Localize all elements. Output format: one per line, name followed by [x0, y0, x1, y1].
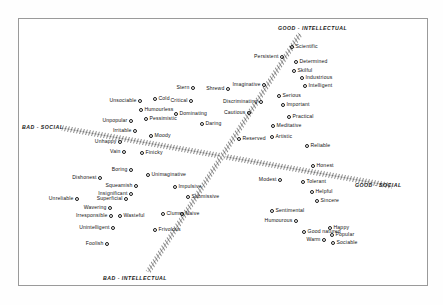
data-point-label: Finicky: [146, 150, 163, 155]
data-point: [277, 94, 281, 98]
data-point: [281, 103, 285, 107]
data-point: [311, 164, 315, 168]
data-point-label: Frivolous: [159, 227, 181, 232]
data-point: [322, 238, 326, 242]
data-point: [237, 137, 241, 141]
data-point-label: Discriminating: [223, 99, 258, 104]
axis-label-good-intellectual: GOOD - INTELLECTUAL: [278, 26, 347, 31]
data-point-label: Wasteful: [124, 213, 145, 218]
data-point: [129, 192, 133, 196]
data-point: [280, 55, 284, 59]
data-point: [118, 140, 122, 144]
data-point: [294, 219, 298, 223]
data-point-label: Honest: [317, 163, 334, 168]
data-point-label: Squeamish: [105, 183, 132, 188]
data-point-label: Vain: [110, 149, 121, 154]
data-point: [262, 83, 266, 87]
data-point: [270, 135, 274, 139]
data-point: [105, 242, 109, 246]
data-point: [226, 87, 230, 91]
data-point-label: Cold: [159, 96, 170, 101]
data-point-label: Unpopular: [102, 118, 127, 123]
data-point-label: Cautious: [224, 110, 246, 115]
data-point: [138, 99, 142, 103]
data-point: [153, 228, 157, 232]
data-point-label: Naive: [186, 211, 200, 216]
data-point: [153, 97, 157, 101]
data-point: [259, 100, 263, 104]
data-point: [305, 144, 309, 148]
data-point: [173, 185, 177, 189]
data-point: [146, 173, 150, 177]
data-point-label: Industrious: [306, 75, 333, 80]
data-point-label: Humourless: [145, 107, 174, 112]
data-point: [331, 241, 335, 245]
data-point-label: Sincere: [321, 198, 340, 203]
data-point: [186, 195, 190, 199]
data-point-label: Reserved: [243, 136, 266, 141]
axis-lines-layer: [0, 0, 443, 305]
data-point: [108, 206, 112, 210]
data-point: [294, 60, 298, 64]
data-point: [303, 84, 307, 88]
data-point-label: Warm: [306, 237, 320, 242]
data-point-label: Humourous: [265, 218, 293, 223]
data-point: [189, 99, 193, 103]
axis-label-bad-social: BAD - SOCIAL: [22, 125, 63, 130]
data-point-label: Irresponsible: [76, 213, 108, 218]
data-point-label: Sentimental: [276, 208, 305, 213]
data-point: [191, 86, 195, 90]
data-point: [149, 134, 153, 138]
data-point-label: Popular: [336, 232, 355, 237]
social-axis-band: [62, 128, 392, 186]
data-point-label: Determined: [300, 59, 328, 64]
data-point: [301, 180, 305, 184]
data-point: [122, 150, 126, 154]
data-point: [75, 197, 79, 201]
data-point: [140, 151, 144, 155]
data-point-label: Serious: [283, 93, 302, 98]
data-point: [139, 108, 143, 112]
data-point: [111, 226, 115, 230]
data-point-label: Skilful: [298, 68, 313, 73]
data-point: [278, 178, 282, 182]
data-point: [292, 69, 296, 73]
data-point-label: Unhappy: [95, 139, 117, 144]
data-point-label: Unsociable: [109, 98, 136, 103]
data-point: [200, 122, 204, 126]
data-point-label: Superficial: [97, 196, 123, 201]
data-point: [124, 197, 128, 201]
axis-label-bad-intellectual: BAD - INTELLECTUAL: [103, 276, 167, 281]
data-point: [300, 76, 304, 80]
data-point: [118, 214, 122, 218]
data-point: [109, 214, 113, 218]
data-point-label: Scientific: [296, 44, 318, 49]
data-point-label: Foolish: [86, 241, 104, 246]
data-point-label: Intelligent: [309, 83, 333, 88]
data-point-label: Artistic: [276, 134, 293, 139]
data-point-label: Tolerant: [307, 179, 327, 184]
data-point-label: Daring: [206, 121, 222, 126]
data-point-label: Unintelligent: [79, 225, 109, 230]
data-point-label: Submissive: [192, 194, 220, 199]
data-point-label: Pessimistic: [150, 116, 177, 121]
data-point: [144, 117, 148, 121]
figure-container: UnsociableColdHumourlessUnpopularPessimi…: [0, 0, 443, 305]
data-point-label: Irritable: [113, 128, 132, 133]
data-point-label: Practical: [293, 114, 314, 119]
data-point: [174, 112, 178, 116]
data-point-label: Dominating: [180, 111, 208, 116]
data-point: [161, 212, 165, 216]
data-point-label: Unreliable: [49, 196, 74, 201]
data-point-label: Dishonest: [72, 175, 96, 180]
data-point-label: Meditative: [277, 123, 302, 128]
data-point: [302, 230, 306, 234]
axis-label-good-social: GOOD - SOCIAL: [355, 183, 402, 188]
data-point-label: Critical: [170, 98, 187, 103]
data-point-label: Modest: [259, 177, 277, 182]
data-point-label: Happy: [334, 225, 350, 230]
data-point-label: Shrewd: [206, 86, 224, 91]
data-point: [134, 184, 138, 188]
data-point-label: Stern: [176, 85, 189, 90]
data-point: [287, 115, 291, 119]
